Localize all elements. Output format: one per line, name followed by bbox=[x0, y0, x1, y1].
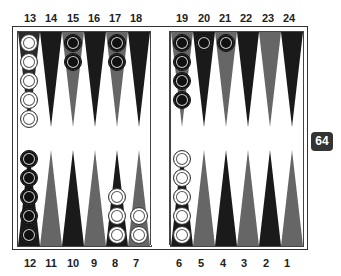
point-label-12: 12 bbox=[19, 257, 41, 269]
point-label-18: 18 bbox=[125, 12, 147, 24]
point-label-16: 16 bbox=[83, 12, 105, 24]
point-label-23: 23 bbox=[257, 12, 279, 24]
checker-white[interactable] bbox=[130, 226, 148, 244]
point-label-6: 6 bbox=[168, 257, 190, 269]
checker-white[interactable] bbox=[130, 207, 148, 225]
point-label-17: 17 bbox=[104, 12, 126, 24]
checker-white[interactable] bbox=[108, 226, 126, 244]
checker-black[interactable] bbox=[20, 226, 38, 244]
checker-white[interactable] bbox=[173, 188, 191, 206]
point-label-24: 24 bbox=[278, 12, 300, 24]
checker-black[interactable] bbox=[64, 34, 82, 52]
checker-black[interactable] bbox=[108, 53, 126, 71]
bar[interactable] bbox=[150, 31, 170, 245]
outer-board bbox=[17, 31, 152, 247]
point-label-10: 10 bbox=[62, 257, 84, 269]
checker-black[interactable] bbox=[108, 34, 126, 52]
point-label-1: 1 bbox=[276, 257, 298, 269]
checker-black[interactable] bbox=[217, 34, 235, 52]
doubling-cube[interactable]: 64 bbox=[311, 132, 333, 151]
checker-black[interactable] bbox=[20, 207, 38, 225]
checker-black[interactable] bbox=[20, 188, 38, 206]
point-label-14: 14 bbox=[40, 12, 62, 24]
point-label-11: 11 bbox=[40, 257, 62, 269]
home-board bbox=[170, 31, 304, 247]
checker-white[interactable] bbox=[173, 150, 191, 168]
point-label-13: 13 bbox=[19, 12, 41, 24]
checker-black[interactable] bbox=[173, 34, 191, 52]
checker-white[interactable] bbox=[20, 72, 38, 90]
point-label-22: 22 bbox=[235, 12, 257, 24]
checker-white[interactable] bbox=[173, 207, 191, 225]
checker-black[interactable] bbox=[20, 169, 38, 187]
point-label-3: 3 bbox=[233, 257, 255, 269]
checker-white[interactable] bbox=[108, 207, 126, 225]
point-label-20: 20 bbox=[193, 12, 215, 24]
checker-black[interactable] bbox=[64, 53, 82, 71]
checker-black[interactable] bbox=[173, 72, 191, 90]
point-label-9: 9 bbox=[83, 257, 105, 269]
checker-white[interactable] bbox=[20, 53, 38, 71]
checker-white[interactable] bbox=[20, 91, 38, 109]
point-label-21: 21 bbox=[214, 12, 236, 24]
point-label-8: 8 bbox=[104, 257, 126, 269]
point-label-7: 7 bbox=[125, 257, 147, 269]
checker-white[interactable] bbox=[20, 34, 38, 52]
checker-black[interactable] bbox=[173, 53, 191, 71]
point-label-4: 4 bbox=[212, 257, 234, 269]
checker-white[interactable] bbox=[20, 110, 38, 128]
checker-black[interactable] bbox=[20, 150, 38, 168]
point-label-19: 19 bbox=[171, 12, 193, 24]
point-label-15: 15 bbox=[62, 12, 84, 24]
checker-white[interactable] bbox=[173, 226, 191, 244]
point-label-2: 2 bbox=[255, 257, 277, 269]
checker-white[interactable] bbox=[108, 188, 126, 206]
checker-black[interactable] bbox=[195, 34, 213, 52]
point-label-5: 5 bbox=[190, 257, 212, 269]
checker-black[interactable] bbox=[173, 91, 191, 109]
checker-white[interactable] bbox=[173, 169, 191, 187]
